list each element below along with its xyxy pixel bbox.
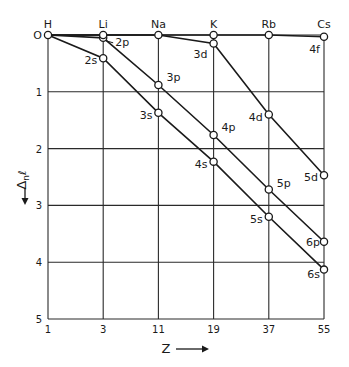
y-tick-label: 3 xyxy=(36,200,42,211)
data-point xyxy=(320,33,327,40)
x-axis-label: Z xyxy=(162,341,171,356)
data-point xyxy=(210,40,217,47)
series-lines xyxy=(48,35,324,270)
data-point xyxy=(265,31,272,38)
data-point xyxy=(155,109,162,116)
data-point xyxy=(210,131,217,138)
y-axis-arrowhead-icon xyxy=(22,198,29,205)
series-s-line xyxy=(48,35,324,270)
data-markers xyxy=(44,31,327,273)
data-point xyxy=(210,158,217,165)
data-point xyxy=(100,55,107,62)
chart: 1311193755HLiNaKRbCsO123452s3s4s5s6s2p3p… xyxy=(0,0,349,367)
data-point xyxy=(155,81,162,88)
point-label-3d: 3d xyxy=(194,48,208,61)
point-label-4d: 4d xyxy=(249,111,263,124)
y-tick-label: 1 xyxy=(36,87,42,98)
point-label-5d: 5d xyxy=(304,171,318,184)
data-point xyxy=(320,172,327,179)
data-point xyxy=(265,186,272,193)
x-axis-arrowhead-icon xyxy=(202,346,209,353)
point-label-2s: 2s xyxy=(84,54,97,67)
y-tick-label: 2 xyxy=(36,144,42,155)
point-label-4s: 4s xyxy=(195,158,208,171)
point-label-3s: 3s xyxy=(140,109,153,122)
x-tick-label: 11 xyxy=(152,324,165,335)
x-tick-label: 1 xyxy=(45,324,51,335)
element-label: Li xyxy=(99,18,108,31)
x-tick-label: 37 xyxy=(262,324,275,335)
data-point xyxy=(210,31,217,38)
point-label-4f: 4f xyxy=(309,43,321,56)
element-label: H xyxy=(44,18,52,31)
data-point xyxy=(320,266,327,273)
point-label-2p: 2p xyxy=(115,36,129,49)
element-label: Cs xyxy=(317,18,331,31)
point-label-5p: 5p xyxy=(277,177,291,190)
point-label-4p: 4p xyxy=(222,121,236,134)
element-label: K xyxy=(210,18,218,31)
data-point xyxy=(265,213,272,220)
point-label-6p: 6p xyxy=(306,236,320,249)
y-tick-label: 5 xyxy=(36,314,42,325)
data-point xyxy=(44,31,51,38)
data-point xyxy=(320,238,327,245)
element-label: Na xyxy=(151,18,166,31)
x-tick-label: 19 xyxy=(207,324,220,335)
y-tick-label: O xyxy=(33,29,42,42)
y-tick-label: 4 xyxy=(36,257,42,268)
point-label-3p: 3p xyxy=(166,71,180,84)
point-label-6s: 6s xyxy=(307,268,320,281)
chart-text: 1311193755HLiNaKRbCsO123452s3s4s5s6s2p3p… xyxy=(14,18,331,356)
data-point xyxy=(100,31,107,38)
point-label-5s: 5s xyxy=(250,213,263,226)
x-tick-label: 3 xyxy=(100,324,106,335)
x-tick-label: 55 xyxy=(318,324,331,335)
data-point xyxy=(265,111,272,118)
y-axis-label: Δnℓ xyxy=(14,170,31,189)
data-point xyxy=(155,31,162,38)
element-label: Rb xyxy=(261,18,276,31)
